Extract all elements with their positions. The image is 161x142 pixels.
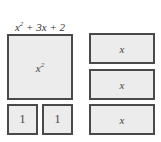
x-squared-label: x2 — [36, 61, 44, 74]
unit-tile-1: 1 — [7, 104, 38, 135]
unit-tile-1-label: 1 — [20, 112, 26, 127]
x-bar-tile-2: x — [89, 69, 155, 100]
x-bar-tile-1-label: x — [120, 43, 125, 55]
x-bar-tile-2-label: x — [120, 79, 125, 91]
x-squared-exponent: 2 — [41, 61, 45, 69]
unit-tile-2-label: 1 — [55, 112, 61, 127]
x-bar-tile-3-label: x — [120, 114, 125, 126]
unit-tile-2: 1 — [42, 104, 73, 135]
x-bar-tile-3: x — [89, 104, 155, 135]
expression-title: x2 + 3x + 2 — [7, 20, 73, 33]
x-squared-tile: x2 — [7, 34, 73, 100]
x-bar-tile-1: x — [89, 33, 155, 64]
title-rest: + 3x + 2 — [23, 21, 65, 33]
